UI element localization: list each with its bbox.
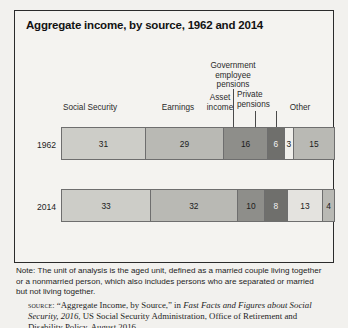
row-label-2014: 2014 <box>28 202 56 212</box>
stacked-bar-2014: 3332108134 <box>61 189 335 222</box>
source-text-1: “Aggregate Income, by Source,” in <box>55 300 183 310</box>
bar-segment-social-security-2014: 33 <box>61 189 150 222</box>
bar-segment-government-employee-pensions-1962: 6 <box>267 127 284 160</box>
bar-segment-private-pensions-1962: 3 <box>284 127 293 160</box>
bar-segment-other-1962: 15 <box>293 127 335 160</box>
bar-segment-private-pensions-2014: 13 <box>287 189 323 222</box>
figure-source: source: “Aggregate Income, by Source,” i… <box>28 300 328 328</box>
bar-segment-earnings-1962: 29 <box>145 127 223 160</box>
bars-plot-area: 1962312916631520143332108134 <box>15 11 335 264</box>
bar-segment-other-2014: 4 <box>322 189 335 222</box>
stacked-bar-1962: 3129166315 <box>61 127 335 160</box>
bar-segment-asset-income-1962: 16 <box>223 127 267 160</box>
row-label-1962: 1962 <box>28 140 56 150</box>
figure-note: Note: The unit of analysis is the aged u… <box>16 266 326 298</box>
source-label: source: <box>28 301 55 310</box>
bar-segment-earnings-2014: 32 <box>150 189 236 222</box>
bar-segment-social-security-1962: 31 <box>61 127 145 160</box>
figure-container: Aggregate income, by source, 1962 and 20… <box>14 10 334 263</box>
bar-segment-asset-income-2014: 10 <box>237 189 265 222</box>
bar-segment-government-employee-pensions-2014: 8 <box>264 189 286 222</box>
